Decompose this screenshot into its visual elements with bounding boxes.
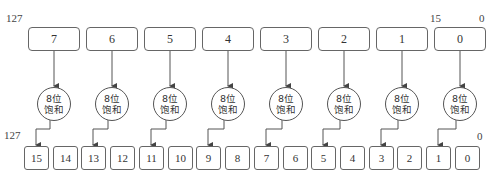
saturate-unit-4: 8位饱和 <box>211 87 245 121</box>
top-msb-label: 127 <box>6 13 23 24</box>
dest-lane-8: 8 <box>225 146 250 170</box>
source-lane-1: 1 <box>376 27 428 51</box>
saturate-unit-2: 8位饱和 <box>327 87 361 121</box>
dest-lane-9: 9 <box>196 146 221 170</box>
source-lane-2: 2 <box>318 27 370 51</box>
arrow-sat5-to-dest11 <box>151 120 166 145</box>
source-lane-5: 5 <box>144 27 196 51</box>
bottom-msb-label: 127 <box>4 130 21 141</box>
source-lane-7: 7 <box>28 27 80 51</box>
dest-lane-12: 12 <box>110 146 135 170</box>
dest-lane-3: 3 <box>369 146 394 170</box>
saturate-unit-1: 8位饱和 <box>385 87 419 121</box>
top-right-msb-label: 15 <box>430 13 441 24</box>
dest-lane-11: 11 <box>139 146 164 170</box>
source-lane-6: 6 <box>86 27 138 51</box>
dest-lane-10: 10 <box>168 146 193 170</box>
saturate-unit-3: 8位饱和 <box>269 87 303 121</box>
dest-lane-14: 14 <box>53 146 78 170</box>
saturate-unit-6: 8位饱和 <box>95 87 129 121</box>
bottom-lsb-label: 0 <box>477 131 483 142</box>
arrow-sat0-to-dest1 <box>438 120 456 145</box>
source-lane-4: 4 <box>202 27 254 51</box>
arrow-sat3-to-dest7 <box>266 120 282 145</box>
saturate-unit-0: 8位饱和 <box>443 87 477 121</box>
dest-lane-15: 15 <box>24 146 49 170</box>
top-lsb-label: 0 <box>479 13 485 24</box>
arrow-sat7-to-dest15 <box>36 120 50 145</box>
saturate-unit-5: 8位饱和 <box>153 87 187 121</box>
saturate-unit-7: 8位饱和 <box>37 87 71 121</box>
dest-lane-2: 2 <box>397 146 422 170</box>
source-lane-3: 3 <box>260 27 312 51</box>
dest-lane-7: 7 <box>254 146 279 170</box>
dest-lane-5: 5 <box>311 146 336 170</box>
arrow-sat1-to-dest3 <box>381 120 398 145</box>
dest-lane-13: 13 <box>81 146 106 170</box>
arrow-sat6-to-dest13 <box>93 120 108 145</box>
source-lane-0: 0 <box>434 27 486 51</box>
dest-lane-6: 6 <box>283 146 308 170</box>
arrow-sat4-to-dest9 <box>208 120 224 145</box>
dest-lane-0: 0 <box>455 146 480 170</box>
arrow-sat2-to-dest5 <box>323 120 340 145</box>
dest-lane-1: 1 <box>426 146 451 170</box>
dest-lane-4: 4 <box>340 146 365 170</box>
